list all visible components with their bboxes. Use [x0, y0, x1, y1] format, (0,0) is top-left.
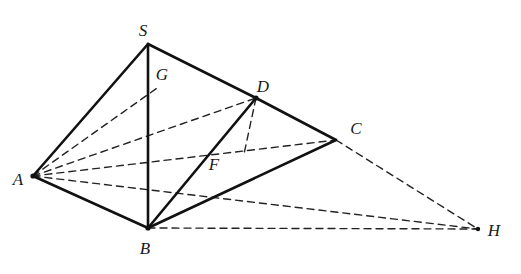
- edge-A-H: [33, 176, 478, 229]
- label-F: F: [208, 155, 220, 174]
- edge-A-C: [33, 140, 336, 176]
- vertex-dots: [30, 95, 480, 231]
- dot-B: [145, 225, 150, 230]
- label-C: C: [350, 119, 362, 138]
- dot-H: [476, 227, 480, 231]
- dot-A: [30, 173, 35, 178]
- geometry-canvas: S G D C A F B H: [0, 0, 521, 274]
- dashed-edges: [33, 44, 478, 229]
- label-A: A: [12, 170, 24, 189]
- edge-A-B: [33, 176, 148, 228]
- label-H: H: [487, 221, 502, 240]
- solid-edges: [33, 44, 336, 228]
- edge-C-H: [336, 140, 478, 229]
- label-S: S: [139, 21, 148, 40]
- edge-B-D: [148, 98, 256, 228]
- dot-D: [253, 95, 258, 100]
- edge-B-H: [148, 228, 478, 229]
- label-B: B: [140, 239, 151, 258]
- label-G: G: [156, 65, 168, 84]
- label-D: D: [256, 77, 270, 96]
- edge-D-C: [256, 98, 336, 140]
- edge-B-C: [148, 140, 336, 228]
- geometry-figure: S G D C A F B H: [0, 0, 521, 274]
